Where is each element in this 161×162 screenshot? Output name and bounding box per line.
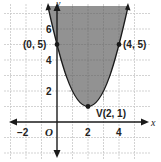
point-0-5 <box>55 42 60 47</box>
tick-y-2: 2 <box>46 86 52 97</box>
point-0-5-label: (0, 5) <box>23 39 46 50</box>
x-axis-label: x <box>150 117 156 128</box>
x-axis-arrow-right <box>141 119 149 126</box>
tick-x-neg2: −2 <box>17 127 29 138</box>
tick-x-4: 4 <box>116 127 122 138</box>
vertex-point <box>86 104 91 109</box>
point-4-5-label: (4, 5) <box>123 39 146 50</box>
tick-y-4: 4 <box>46 55 52 66</box>
tick-x-2: 2 <box>85 127 91 138</box>
parabola-graph: y x −2 O 2 4 6 4 2 (0, 5) (4, 5) V(2, 1) <box>0 0 161 162</box>
tick-y-6: 6 <box>46 24 52 35</box>
y-axis-arrow-down <box>54 150 61 158</box>
y-axis-label: y <box>55 0 61 9</box>
vertex-label: V(2, 1) <box>96 108 126 119</box>
point-4-5 <box>117 42 122 47</box>
origin-label: O <box>45 126 53 138</box>
